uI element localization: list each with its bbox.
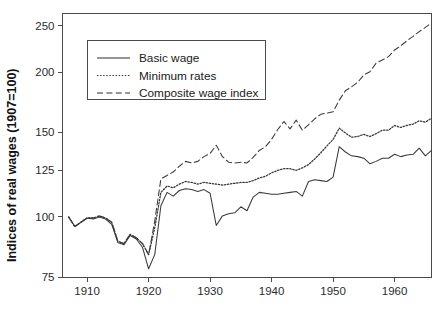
y-tick-label: 125 xyxy=(35,164,54,176)
legend-label-minimum-rates: Minimum rates xyxy=(139,69,216,83)
chart-legend: Basic wageMinimum ratesComposite wage in… xyxy=(88,41,266,101)
y-tick-label: 250 xyxy=(35,20,54,32)
y-tick-label: 75 xyxy=(42,271,55,283)
x-tick-label: 1930 xyxy=(197,285,223,297)
x-tick-label: 1960 xyxy=(382,285,408,297)
y-tick-label: 150 xyxy=(35,126,54,138)
legend-label-basic-wage: Basic wage xyxy=(139,51,200,65)
x-axis-ticks: 191019201930194019501960 xyxy=(74,277,407,297)
y-axis-ticks: 75100125150200250 xyxy=(35,20,62,283)
x-tick-label: 1950 xyxy=(320,285,346,297)
x-tick-label: 1910 xyxy=(74,285,100,297)
legend-label-composite-wage-index: Composite wage index xyxy=(139,86,258,100)
series-line-basic-wage xyxy=(69,147,432,269)
x-tick-label: 1920 xyxy=(136,285,162,297)
chart-page: Indices of real wages (1907=100) 7510012… xyxy=(0,0,441,317)
y-tick-label: 100 xyxy=(35,211,54,223)
x-tick-label: 1940 xyxy=(259,285,285,297)
series-line-minimum-rates xyxy=(69,118,432,254)
y-tick-label: 200 xyxy=(35,66,54,78)
y-axis-title: Indices of real wages (1907=100) xyxy=(5,68,19,262)
wage-index-line-chart: Indices of real wages (1907=100) 7510012… xyxy=(0,0,441,317)
